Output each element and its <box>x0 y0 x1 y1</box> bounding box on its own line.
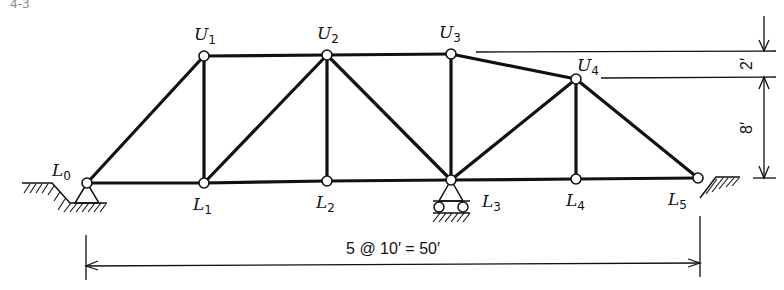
label-U2: U2 <box>317 23 339 46</box>
roller-support-L3 <box>433 180 470 222</box>
pin-support-L0 <box>22 183 107 212</box>
vertical-dimensions: 2′ 8′ <box>476 16 776 178</box>
truss-diagram: 4-3 <box>0 0 784 290</box>
dimension-8ft: 8′ <box>738 122 755 134</box>
member-L2-L3 <box>327 180 451 181</box>
span-dimension-line <box>86 263 700 266</box>
ground-hatch-icon <box>433 213 470 222</box>
joint-U1 <box>199 51 209 61</box>
joint-L0 <box>82 178 92 188</box>
dimension-2ft: 2′ <box>738 58 755 70</box>
member-L4-L5 <box>576 178 698 179</box>
member-L1-L2 <box>204 181 327 183</box>
extension-line-U3 <box>476 51 776 52</box>
joint-U2 <box>322 50 332 60</box>
corner-text-fragment: 4-3 <box>10 0 30 11</box>
label-L3: L3 <box>481 191 501 214</box>
label-L5: L5 <box>667 189 687 212</box>
span-dimension: 5 @ 10′ = 50′ <box>86 216 700 280</box>
member-L3-L4 <box>451 179 576 180</box>
label-L4: L4 <box>565 190 585 213</box>
member-L0-U1 <box>87 56 204 183</box>
joint-L1 <box>199 178 209 188</box>
member-U1-U2 <box>204 55 327 56</box>
label-L2: L2 <box>315 192 335 215</box>
label-L1: L1 <box>192 194 212 217</box>
joint-L2 <box>322 176 332 186</box>
member-U2-U3 <box>327 54 451 55</box>
truss-members <box>87 54 698 183</box>
label-U1: U1 <box>194 24 216 47</box>
member-L1-U2 <box>204 55 327 183</box>
member-L3-U4 <box>451 79 576 180</box>
roller-wheel-icon <box>434 202 444 212</box>
extension-line-U4 <box>601 77 776 78</box>
joint-U3 <box>446 49 456 59</box>
span-label: 5 @ 10′ = 50′ <box>346 240 440 257</box>
roller-wheel-icon <box>458 202 468 212</box>
truss-nodes <box>82 49 703 188</box>
joint-U4 <box>571 74 581 84</box>
label-L0: L0 <box>51 160 71 183</box>
abutment-L5 <box>700 177 740 198</box>
joint-L3 <box>446 175 456 185</box>
member-U3-U4 <box>451 54 576 79</box>
joint-L5 <box>693 173 703 183</box>
ground-hatch-icon <box>706 178 739 194</box>
member-U2-L3 <box>327 55 451 180</box>
label-U4: U4 <box>577 55 599 78</box>
label-U3: U3 <box>439 22 461 45</box>
joint-L4 <box>571 174 581 184</box>
member-U4-L5 <box>576 79 698 178</box>
